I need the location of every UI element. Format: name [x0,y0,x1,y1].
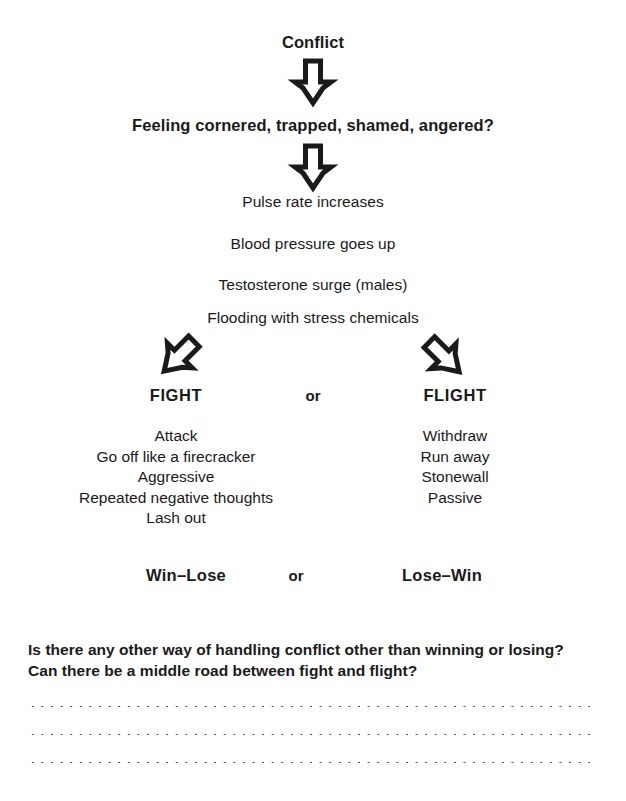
body-reaction-line: Pulse rate increases [0,194,626,210]
worksheet-page: Conflict Feeling cornered, trapped, sham… [0,0,626,801]
answer-dotted-line[interactable] [28,761,595,764]
fight-trait-item: Attack [79,426,273,447]
flight-trait-item: Passive [421,488,490,509]
flight-trait-item: Withdraw [421,426,490,447]
arrow-down-right-icon [418,333,474,385]
fight-trait-item: Lash out [79,508,273,529]
trigger-question: Feeling cornered, trapped, shamed, anger… [0,117,626,134]
flow-title: Conflict [0,34,626,51]
flight-trait-item: Run away [421,447,490,468]
flight-trait-item: Stonewall [421,467,490,488]
answer-dotted-line[interactable] [28,733,595,736]
outcome-connector-or: or [289,567,304,584]
reflection-question-line-2: Can there be a middle road between fight… [28,660,608,681]
fight-trait-list: Attack Go off like a firecracker Aggress… [79,426,273,529]
fight-trait-item: Go off like a firecracker [79,447,273,468]
body-reaction-line: Blood pressure goes up [0,236,626,252]
body-reaction-line: Testosterone surge (males) [0,277,626,293]
flight-trait-list: Withdraw Run away Stonewall Passive [421,426,490,508]
branch-label-flight: FLIGHT [423,386,486,405]
branch-label-fight: FIGHT [150,386,203,405]
reflection-question: Is there any other way of handling confl… [28,639,608,681]
outcome-win-lose: Win–Lose [146,566,226,585]
arrow-down-icon-2 [291,143,335,191]
answer-dotted-line[interactable] [28,705,595,708]
fight-trait-item: Aggressive [79,467,273,488]
reflection-question-line-1: Is there any other way of handling confl… [28,639,608,660]
branch-connector-or: or [306,387,321,404]
body-reaction-line: Flooding with stress chemicals [0,310,626,326]
outcome-lose-win: Lose–Win [402,566,482,585]
fight-trait-item: Repeated negative thoughts [79,488,273,509]
arrow-down-icon-1 [291,58,335,106]
arrow-down-left-icon [152,333,208,385]
